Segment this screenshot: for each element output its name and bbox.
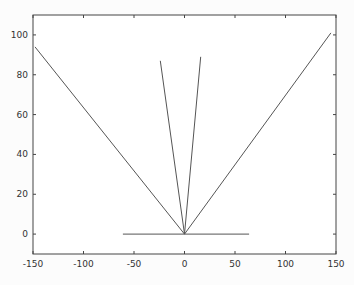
- x-tick-label: -150: [23, 259, 44, 269]
- plot-frame: [33, 15, 336, 254]
- plot-area: [33, 15, 336, 254]
- x-tick-label: -100: [73, 259, 94, 269]
- x-tick-label: -50: [127, 259, 142, 269]
- line-chart: -150-100-50050100150 020406080100: [0, 0, 354, 285]
- x-tick-label: 0: [182, 259, 188, 269]
- y-tick-label: 60: [17, 110, 29, 120]
- y-tick-label: 100: [11, 30, 28, 40]
- y-tick-label: 20: [17, 189, 29, 199]
- y-tick-label: 80: [17, 70, 29, 80]
- x-tick-label: 50: [229, 259, 241, 269]
- x-tick-label: 150: [327, 259, 344, 269]
- x-tick-label: 100: [277, 259, 294, 269]
- y-tick-label: 40: [17, 149, 29, 159]
- y-tick-label: 0: [22, 229, 28, 239]
